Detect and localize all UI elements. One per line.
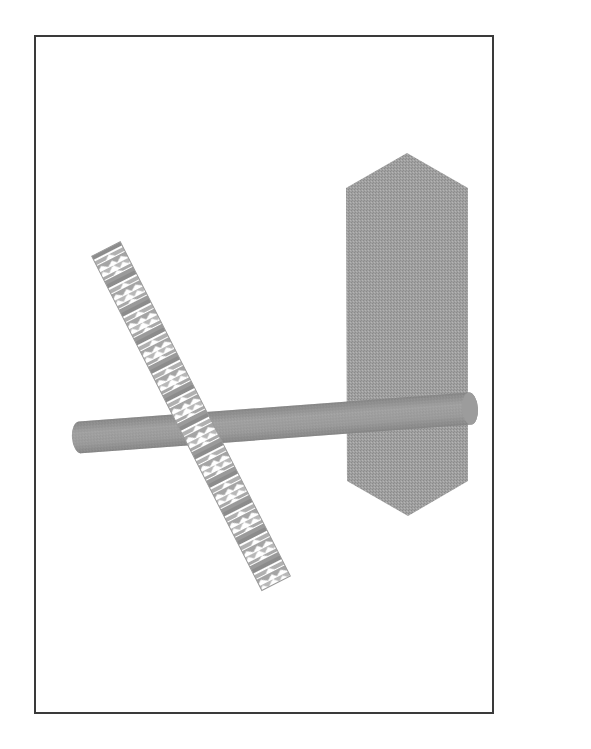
scene-canvas <box>0 0 591 749</box>
hexagonal-plate <box>346 153 468 516</box>
